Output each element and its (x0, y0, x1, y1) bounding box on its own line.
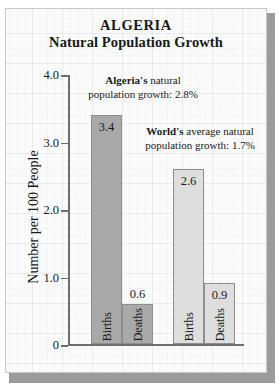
bar-value-world-births: 2.6 (174, 174, 203, 189)
annotation-algeria-line-1: Algeria's natural (78, 73, 208, 87)
y-tick-3 (61, 143, 68, 145)
bar-category-holder-algeria-births: Births (92, 287, 121, 341)
annotation-algeria: Algeria's natural population growth: 2.8… (78, 73, 208, 101)
bar-category-world-deaths: Deaths (212, 308, 227, 341)
bar-category-holder-algeria-deaths: Deaths (123, 287, 152, 341)
y-tick-2 (61, 210, 68, 212)
bar-value-algeria-births: 3.4 (92, 120, 121, 135)
annotation-world-rest: average natural (184, 125, 254, 137)
bar-category-holder-world-deaths: Deaths (205, 287, 234, 341)
x-axis-line (68, 344, 244, 346)
y-tick-0 (61, 345, 68, 347)
y-tick-4 (61, 75, 68, 77)
bar-category-algeria-deaths: Deaths (130, 308, 145, 341)
annotation-world-line-1: World's average natural (136, 124, 264, 138)
annotation-world-lead: World's (146, 125, 183, 137)
y-axis-line (68, 75, 70, 345)
bar-algeria-births[interactable]: 3.4 Births (91, 115, 122, 345)
annotation-algeria-lead: Algeria's (105, 74, 147, 86)
bar-category-algeria-births: Births (99, 312, 114, 341)
annotation-world-line-2: population growth: 1.7% (136, 138, 264, 152)
figure-root: ALGERIA Natural Population Growth 4.0 3.… (0, 0, 278, 386)
plot-area: 4.0 3.0 2.0 1.0 0 Number per 100 People … (6, 9, 266, 372)
y-axis-title: Number per 100 People (26, 102, 42, 332)
bar-algeria-deaths[interactable]: 0.6 Deaths (122, 304, 153, 345)
bar-category-holder-world-births: Births (174, 287, 203, 341)
y-tick-label-4: 4.0 (29, 68, 59, 83)
annotation-world: World's average natural population growt… (136, 124, 264, 152)
bar-category-world-births: Births (181, 312, 196, 341)
bar-world-deaths[interactable]: 0.9 Deaths (204, 283, 235, 344)
y-tick-1 (61, 278, 68, 280)
figure-paper: ALGERIA Natural Population Growth 4.0 3.… (5, 8, 267, 373)
y-tick-label-0: 0 (29, 338, 59, 353)
annotation-algeria-line-2: population growth: 2.8% (78, 87, 208, 101)
bar-world-births[interactable]: 2.6 Births (173, 169, 204, 345)
annotation-algeria-rest: natural (147, 74, 180, 86)
